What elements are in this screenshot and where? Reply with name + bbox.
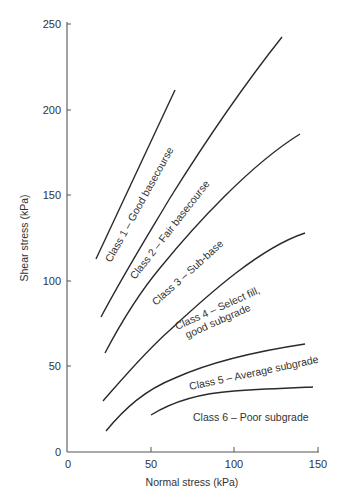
- y-tick-label: 250: [43, 18, 61, 30]
- label-class-5: Class 5 – Average subgrade: [188, 353, 320, 392]
- y-tick-label: 100: [43, 275, 61, 287]
- y-axis-title: Shear stress (kPa): [18, 195, 30, 282]
- y-tick-label: 50: [49, 360, 61, 372]
- y-tick-label: 200: [43, 104, 61, 116]
- x-tick-label: 150: [309, 458, 327, 470]
- y-tick-label: 150: [43, 189, 61, 201]
- label-class-4: Class 4 – Select fill, good subgrade: [173, 284, 266, 343]
- y-tick-label: 0: [55, 446, 61, 458]
- x-tick-label: 0: [65, 458, 71, 470]
- x-axis-title: Normal stress (kPa): [146, 476, 239, 488]
- label-class-1: Class 1 – Good basecourse: [102, 145, 175, 264]
- curve-labels: Class 1 – Good basecourse Class 2 – Fair…: [102, 145, 319, 423]
- label-class-6: Class 6 – Poor subgrade: [193, 411, 309, 423]
- x-tick-label: 50: [145, 458, 157, 470]
- shear-normal-stress-chart: 250 200 150 100 50 0 0 50 100 150 Normal…: [0, 0, 343, 497]
- x-tick-label: 100: [225, 458, 243, 470]
